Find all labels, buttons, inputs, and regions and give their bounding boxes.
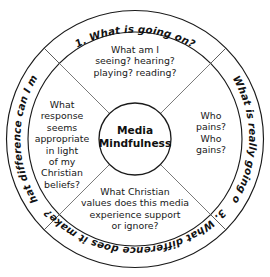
- center-label: Media Mindfulness: [92, 124, 178, 150]
- media-mindfulness-diagram: 1. What is going on? 2. What is really g…: [0, 0, 270, 277]
- outer-divider-nw: [44, 48, 59, 63]
- quadrant-right-text: Who pains? Who gains?: [183, 110, 239, 156]
- quadrant-left-text: What response seems appropriate in light…: [31, 99, 93, 190]
- quadrant-bottom-text: What Christian values does this media ex…: [68, 186, 202, 232]
- outer-divider-ne: [211, 48, 226, 63]
- quadrant-top-text: What am I seeing? hearing? playing? read…: [74, 44, 196, 78]
